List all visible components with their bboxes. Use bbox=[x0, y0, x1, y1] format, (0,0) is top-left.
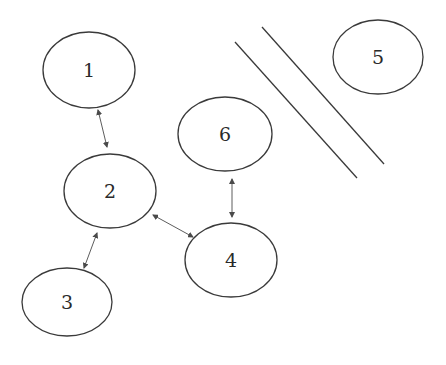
edge-2-4-double-arrow-icon bbox=[153, 215, 193, 237]
node-label: 5 bbox=[372, 46, 384, 68]
nodes-group: 123456 bbox=[22, 20, 423, 336]
node-2: 2 bbox=[64, 154, 156, 228]
edge-1-2-double-arrow-icon bbox=[98, 110, 107, 147]
node-6: 6 bbox=[178, 97, 272, 171]
edge-2-3-double-arrow-icon bbox=[84, 233, 97, 268]
diagram-canvas: 123456 bbox=[0, 0, 446, 365]
node-label: 6 bbox=[219, 123, 231, 145]
node-label: 3 bbox=[61, 291, 73, 313]
node-label: 2 bbox=[104, 180, 116, 202]
node-4: 4 bbox=[185, 223, 277, 297]
node-5: 5 bbox=[333, 20, 423, 94]
node-3: 3 bbox=[22, 268, 112, 336]
node-label: 1 bbox=[83, 59, 95, 81]
node-1: 1 bbox=[43, 32, 135, 108]
diagram-svg: 123456 bbox=[0, 0, 446, 365]
node-label: 4 bbox=[225, 249, 237, 271]
